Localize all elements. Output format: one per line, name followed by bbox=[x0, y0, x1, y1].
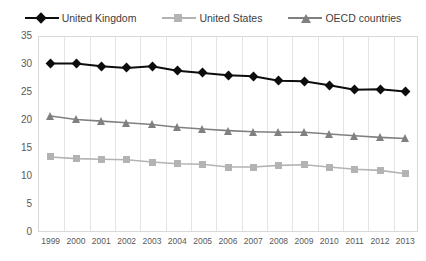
legend-item-united-kingdom: United Kingdom bbox=[25, 12, 137, 24]
data-point-marker bbox=[250, 164, 257, 171]
data-point-marker bbox=[274, 128, 282, 136]
data-point-marker bbox=[72, 115, 80, 123]
gridline-vertical bbox=[267, 37, 268, 231]
gridline-vertical bbox=[343, 37, 344, 231]
x-axis-tick-label: 2013 bbox=[385, 236, 425, 246]
legend-point-marker bbox=[301, 14, 311, 23]
data-point-marker bbox=[47, 153, 54, 160]
y-axis-tick-label: 35 bbox=[0, 31, 32, 41]
data-point-marker bbox=[97, 117, 105, 125]
gridline-vertical bbox=[140, 37, 141, 231]
gridline-vertical bbox=[368, 37, 369, 231]
legend-label-united-states: United States bbox=[199, 12, 262, 24]
data-point-marker bbox=[122, 119, 130, 127]
legend-marker-diamond-icon bbox=[25, 12, 59, 24]
legend-label-united-kingdom: United Kingdom bbox=[62, 12, 137, 24]
y-axis-tick-label: 0 bbox=[0, 227, 32, 237]
legend-item-oecd-countries: OECD countries bbox=[288, 12, 401, 24]
y-axis-tick-label: 30 bbox=[0, 59, 32, 69]
data-point-marker bbox=[198, 125, 206, 133]
data-point-marker bbox=[350, 132, 358, 140]
data-point-marker bbox=[300, 128, 308, 136]
data-point-marker bbox=[326, 164, 333, 171]
gridline-vertical bbox=[64, 37, 65, 231]
y-axis-tick-label: 25 bbox=[0, 87, 32, 97]
data-point-marker bbox=[224, 127, 232, 135]
legend-marker-triangle-icon bbox=[288, 12, 322, 24]
y-axis-tick-label: 20 bbox=[0, 115, 32, 125]
data-point-marker bbox=[173, 123, 181, 131]
data-point-marker bbox=[402, 170, 409, 177]
gridline-vertical bbox=[318, 37, 319, 231]
data-point-marker bbox=[149, 159, 156, 166]
gridline-vertical bbox=[394, 37, 395, 231]
gridline-vertical bbox=[115, 37, 116, 231]
data-point-marker bbox=[249, 128, 257, 136]
gridline-vertical bbox=[166, 37, 167, 231]
data-point-marker bbox=[275, 162, 282, 169]
data-point-marker bbox=[377, 167, 384, 174]
gridline-vertical bbox=[216, 37, 217, 231]
data-point-marker bbox=[123, 156, 130, 163]
legend-marker-square-icon bbox=[162, 12, 196, 24]
data-point-marker bbox=[351, 166, 358, 173]
legend-point-marker bbox=[35, 12, 46, 23]
data-point-marker bbox=[225, 164, 232, 171]
data-point-marker bbox=[301, 161, 308, 168]
data-point-marker bbox=[401, 134, 409, 142]
gridline-vertical bbox=[191, 37, 192, 231]
data-point-marker bbox=[199, 161, 206, 168]
legend-label-oecd-countries: OECD countries bbox=[325, 12, 401, 24]
gridline-vertical bbox=[90, 37, 91, 231]
chart-legend: United Kingdom United States OECD countr… bbox=[0, 8, 426, 28]
data-point-marker bbox=[98, 156, 105, 163]
y-axis-tick-label: 5 bbox=[0, 199, 32, 209]
legend-item-united-states: United States bbox=[162, 12, 262, 24]
gridline-vertical bbox=[292, 37, 293, 231]
y-axis-tick-label: 15 bbox=[0, 143, 32, 153]
y-axis-tick-label: 10 bbox=[0, 171, 32, 181]
gridline-vertical bbox=[242, 37, 243, 231]
data-point-marker bbox=[325, 130, 333, 138]
data-point-marker bbox=[46, 112, 54, 120]
data-point-marker bbox=[148, 120, 156, 128]
line-chart: United Kingdom United States OECD countr… bbox=[0, 0, 426, 261]
legend-point-marker bbox=[174, 14, 182, 22]
data-point-marker bbox=[376, 133, 384, 141]
data-point-marker bbox=[73, 155, 80, 162]
data-point-marker bbox=[174, 160, 181, 167]
